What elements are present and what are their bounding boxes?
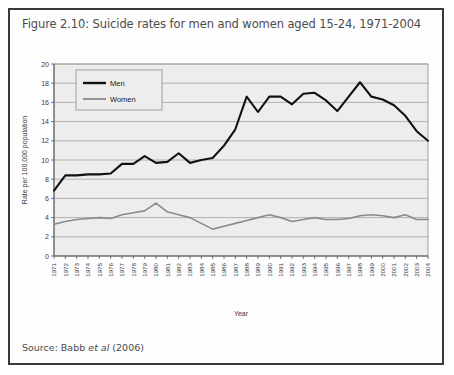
- x-tick-label: 1973: [73, 262, 80, 276]
- source-note: Source: Babb et al (2006): [22, 342, 144, 353]
- x-tick-label: 1979: [141, 262, 148, 276]
- x-tick-label: 1990: [266, 262, 273, 276]
- x-tick-label: 1977: [118, 262, 125, 276]
- y-axis-title: Rate per 100,000 population: [21, 116, 29, 204]
- x-tick-label: 1987: [232, 262, 239, 276]
- legend-label-women: Women: [110, 95, 136, 104]
- y-tick-label: 12: [41, 137, 49, 144]
- chart-svg: 0246810121416182019711972197319741975197…: [18, 58, 436, 320]
- y-tick-label: 18: [41, 80, 49, 87]
- y-tick-label: 20: [41, 61, 49, 68]
- x-axis-title: Year: [234, 310, 249, 317]
- y-tick-label: 8: [45, 176, 49, 183]
- x-tick-label: 1999: [368, 262, 375, 276]
- x-tick-label: 1974: [84, 262, 91, 276]
- x-tick-label: 1991: [277, 262, 284, 276]
- y-tick-label: 16: [41, 99, 49, 106]
- x-tick-label: 1992: [288, 262, 295, 276]
- x-tick-label: 2002: [402, 262, 409, 276]
- x-tick-label: 1978: [130, 262, 137, 276]
- x-tick-label: 1985: [209, 262, 216, 276]
- x-tick-label: 1976: [107, 262, 114, 276]
- x-tick-label: 1986: [220, 262, 227, 276]
- y-tick-label: 2: [45, 233, 49, 240]
- y-tick-label: 14: [41, 118, 49, 125]
- x-tick-label: 1984: [198, 262, 205, 276]
- x-tick-label: 1994: [311, 262, 318, 276]
- x-tick-label: 1988: [243, 262, 250, 276]
- x-tick-label: 1980: [152, 262, 159, 276]
- y-tick-label: 4: [45, 214, 49, 221]
- x-tick-label: 1995: [322, 262, 329, 276]
- y-tick-label: 6: [45, 195, 49, 202]
- x-tick-label: 1982: [175, 262, 182, 276]
- x-tick-label: 1971: [50, 262, 57, 276]
- x-tick-label: 1972: [62, 262, 69, 276]
- x-tick-label: 2000: [379, 262, 386, 276]
- x-tick-label: 1993: [300, 262, 307, 276]
- x-tick-label: 1998: [356, 262, 363, 276]
- x-tick-label: 1975: [96, 262, 103, 276]
- line-chart: 0246810121416182019711972197319741975197…: [18, 58, 436, 320]
- y-tick-label: 0: [45, 253, 49, 260]
- x-tick-label: 2001: [390, 262, 397, 276]
- source-italic: et al: [88, 342, 109, 353]
- x-tick-label: 2003: [413, 262, 420, 276]
- chart-legend: [76, 70, 162, 110]
- figure-title: Figure 2.10: Suicide rates for men and w…: [22, 17, 430, 32]
- x-tick-label: 2004: [424, 262, 431, 276]
- x-tick-label: 1996: [334, 262, 341, 276]
- y-tick-label: 10: [41, 157, 49, 164]
- source-suffix: (2006): [109, 342, 144, 353]
- x-tick-label: 1983: [186, 262, 193, 276]
- legend-label-men: Men: [110, 79, 125, 88]
- x-tick-label: 1981: [164, 262, 171, 276]
- x-tick-label: 1997: [345, 262, 352, 276]
- figure-container: Figure 2.10: Suicide rates for men and w…: [8, 8, 444, 365]
- source-prefix: Source: Babb: [22, 342, 88, 353]
- x-tick-label: 1989: [254, 262, 261, 276]
